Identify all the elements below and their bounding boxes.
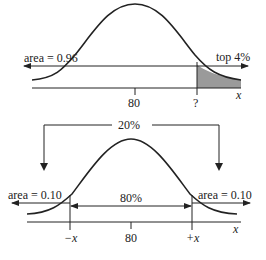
bottom-left-area-label: area = 0.10 — [8, 188, 62, 202]
top-mean-label: 80 — [128, 96, 140, 110]
bracket-left-arrowhead — [40, 163, 48, 171]
bottom-mean-label: 80 — [125, 231, 137, 245]
bottom-left-tick-label: −x — [64, 231, 78, 245]
bottom-right-area-label: area = 0.10 — [198, 188, 252, 202]
bracket-label: 20% — [118, 118, 140, 132]
top-tail-shade — [197, 65, 241, 88]
top-diagram: area = 0.96 top 4% 80 ? x — [24, 4, 250, 110]
bottom-axis-label: x — [232, 222, 239, 236]
bottom-center-label: 80% — [120, 191, 142, 205]
normal-distribution-diagrams: area = 0.96 top 4% 80 ? x 20% area = 0.1… — [0, 0, 266, 260]
top-bell-curve — [32, 4, 241, 80]
bracket-right-arrowhead — [215, 163, 223, 171]
top-unknown-label: ? — [193, 96, 198, 110]
bottom-right-tick-label: +x — [186, 231, 200, 245]
bottom-diagram: 20% area = 0.10 area = 0.10 80% −x 80 +x… — [8, 118, 252, 245]
top-right-label: top 4% — [216, 50, 250, 64]
top-axis-label: x — [235, 88, 242, 102]
top-left-area-label: area = 0.96 — [24, 51, 78, 65]
